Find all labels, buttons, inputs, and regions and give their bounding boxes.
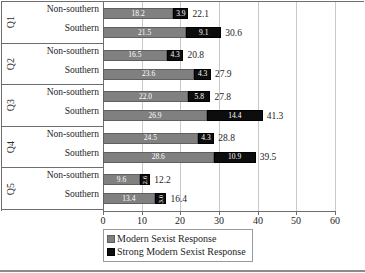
bar-segment-strong-q2-southern: 4.3 [194, 69, 211, 80]
bar-row-q5-southern: 13.43.016.4 [103, 193, 335, 204]
bar-value-modern-q5-non-southern: 9.6 [117, 176, 126, 184]
bar-row-q1-southern: 21.59.130.6 [103, 27, 335, 38]
row-label-q3-non-southern: Non-southern [47, 87, 99, 97]
bar-segment-modern-q5-southern: 13.4 [103, 193, 155, 204]
bar-row-q4-southern: 28.610.939.5 [103, 152, 335, 163]
bar-row-q1-non-southern: 18.23.922.1 [103, 8, 335, 19]
group-label-q2: Q2 [5, 58, 16, 71]
group-label-q3: Q3 [5, 99, 16, 112]
bar-value-strong-q2-southern: 4.3 [198, 70, 207, 78]
legend-swatch-modern-icon [107, 235, 115, 243]
bar-segment-strong-q5-non-southern: 2.6 [140, 174, 150, 185]
row-label-q5-non-southern: Non-southern [47, 170, 99, 180]
bar-value-strong-q5-non-southern: 2.6 [141, 176, 149, 185]
legend-swatch-strong-icon [107, 248, 115, 256]
bar-value-strong-q3-southern: 14.4 [228, 112, 241, 120]
row-label-q1-non-southern: Non-southern [47, 4, 99, 14]
bar-row-q5-non-southern: 9.62.612.2 [103, 174, 335, 185]
bar-segment-strong-q1-non-southern: 3.9 [173, 8, 188, 19]
category-group-q3: Q3Non-southernSouthern [2, 85, 103, 127]
bar-total-q3-southern: 41.3 [267, 111, 284, 121]
bar-total-q2-southern: 27.9 [215, 69, 232, 79]
bar-segment-modern-q4-non-southern: 24.5 [103, 133, 198, 144]
category-group-q5: Q5Non-southernSouthern [2, 168, 103, 210]
bar-segment-strong-q1-southern: 9.1 [186, 27, 221, 38]
bar-segment-strong-q2-non-southern: 4.3 [167, 50, 184, 61]
row-label-q5-southern: Southern [65, 189, 99, 199]
bar-value-modern-q5-southern: 13.4 [122, 195, 135, 203]
bar-segment-modern-q3-southern: 26.9 [103, 110, 207, 121]
bar-total-q5-non-southern: 12.2 [154, 175, 171, 185]
category-group-q2: Q2Non-southernSouthern [2, 44, 103, 86]
bar-segment-strong-q3-non-southern: 5.8 [188, 91, 210, 102]
bar-value-strong-q4-non-southern: 4.3 [201, 134, 210, 142]
bar-segment-strong-q3-southern: 14.4 [207, 110, 263, 121]
bar-total-q4-southern: 39.5 [260, 152, 277, 162]
bar-row-q3-southern: 26.914.441.3 [103, 110, 335, 121]
bar-value-strong-q2-non-southern: 4.3 [170, 51, 179, 59]
frame-bottom-rule [0, 270, 365, 272]
bar-total-q1-non-southern: 22.1 [192, 9, 209, 19]
bar-total-q5-southern: 16.4 [170, 194, 187, 204]
bar-value-modern-q2-southern: 23.6 [142, 70, 155, 78]
bar-row-q4-non-southern: 24.54.328.8 [103, 133, 335, 144]
x-tick-label-0: 0 [101, 215, 106, 226]
bar-value-modern-q3-southern: 26.9 [148, 112, 161, 120]
bar-segment-strong-q4-southern: 10.9 [214, 152, 256, 163]
bar-value-strong-q1-southern: 9.1 [199, 29, 208, 37]
bar-segment-modern-q1-non-southern: 18.2 [103, 8, 173, 19]
row-label-q2-non-southern: Non-southern [47, 46, 99, 56]
chart-legend: Modern Sexist Response Strong Modern Sex… [103, 229, 253, 262]
bar-value-modern-q4-southern: 28.6 [152, 153, 165, 161]
bar-total-q3-non-southern: 27.8 [214, 92, 231, 102]
group-label-q4: Q4 [5, 141, 16, 154]
x-tick-label-50: 50 [291, 215, 301, 226]
bar-value-modern-q2-non-southern: 16.5 [128, 51, 141, 59]
row-label-q4-southern: Southern [65, 148, 99, 158]
group-label-q5: Q5 [5, 182, 16, 195]
gridline-60 [335, 2, 336, 211]
bar-value-strong-q4-southern: 10.9 [228, 153, 241, 161]
bar-segment-modern-q3-non-southern: 22.0 [103, 91, 188, 102]
bar-total-q2-non-southern: 20.8 [187, 50, 204, 60]
row-label-q1-southern: Southern [65, 23, 99, 33]
legend-label-modern: Modern Sexist Response [117, 233, 216, 244]
x-tick-label-10: 10 [137, 215, 147, 226]
bar-row-q3-non-southern: 22.05.827.8 [103, 91, 335, 102]
bar-value-strong-q3-non-southern: 5.8 [195, 93, 204, 101]
group-label-q1: Q1 [5, 16, 16, 29]
bar-segment-modern-q2-non-southern: 16.5 [103, 50, 167, 61]
bar-value-modern-q1-southern: 21.5 [138, 29, 151, 37]
plot-area: 0102030405060 18.23.922.121.59.130.616.5… [103, 2, 335, 211]
legend-item-strong: Strong Modern Sexist Response [107, 245, 246, 258]
row-label-q2-southern: Southern [65, 65, 99, 75]
bar-segment-modern-q4-southern: 28.6 [103, 152, 214, 163]
row-label-q4-non-southern: Non-southern [47, 129, 99, 139]
x-tick-label-40: 40 [253, 215, 263, 226]
row-label-q3-southern: Southern [65, 106, 99, 116]
bar-value-strong-q5-southern: 3.0 [157, 195, 165, 204]
bar-value-modern-q1-non-southern: 18.2 [132, 10, 145, 18]
category-group-q4: Q4Non-southernSouthern [2, 127, 103, 169]
bar-segment-modern-q2-southern: 23.6 [103, 69, 194, 80]
bar-row-q2-southern: 23.64.327.9 [103, 69, 335, 80]
bar-segment-strong-q5-southern: 3.0 [155, 193, 167, 204]
x-tick-label-30: 30 [214, 215, 224, 226]
bar-total-q4-non-southern: 28.8 [218, 133, 235, 143]
bar-total-q1-southern: 30.6 [225, 28, 242, 38]
x-tick-label-20: 20 [175, 215, 185, 226]
legend-label-strong: Strong Modern Sexist Response [117, 246, 246, 257]
bar-segment-modern-q5-non-southern: 9.6 [103, 174, 140, 185]
bar-value-modern-q3-non-southern: 22.0 [139, 93, 152, 101]
bar-value-modern-q4-non-southern: 24.5 [144, 134, 157, 142]
x-tick-label-60: 60 [330, 215, 340, 226]
legend-item-modern: Modern Sexist Response [107, 232, 246, 245]
bar-segment-strong-q4-non-southern: 4.3 [198, 133, 215, 144]
bar-row-q2-non-southern: 16.54.320.8 [103, 50, 335, 61]
bar-value-strong-q1-non-southern: 3.9 [176, 10, 185, 18]
stacked-bar-chart: Q1Non-southernSouthernQ2Non-southernSout… [0, 0, 365, 273]
category-group-q1: Q1Non-southernSouthern [2, 2, 103, 44]
bar-segment-modern-q1-southern: 21.5 [103, 27, 186, 38]
